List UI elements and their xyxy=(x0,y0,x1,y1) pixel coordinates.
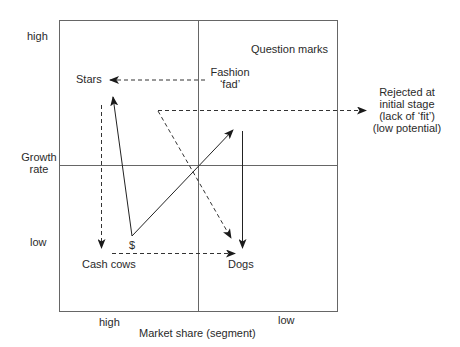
x-axis-title: Market share (segment) xyxy=(139,327,256,339)
cash-symbol: $ xyxy=(129,239,135,251)
rejected-line2: initial stage xyxy=(362,98,452,110)
x-axis-low-label: low xyxy=(278,314,295,326)
y-axis-high-label: high xyxy=(27,30,48,42)
quadrant-cashcows-label: Cash cows xyxy=(82,258,136,270)
fashion-fad-line2: ‘fad’ xyxy=(205,78,255,90)
arrow-cash-to-questionmarks xyxy=(132,130,233,236)
rejected-line4: (low potential) xyxy=(362,122,452,134)
x-axis-high-label: high xyxy=(99,316,120,328)
quadrant-questionmarks-label: Question marks xyxy=(251,43,328,55)
fashion-fad-line1: Fashion xyxy=(205,66,255,78)
y-axis-title-line2: rate xyxy=(19,163,59,175)
y-axis-title-line1: Growth xyxy=(19,151,59,163)
rejected-label: Rejected at initial stage (lack of ‘fit’… xyxy=(362,86,452,134)
quadrant-stars-label: Stars xyxy=(76,73,102,85)
arrow-cash-to-stars xyxy=(113,97,132,236)
quadrant-dogs-label: Dogs xyxy=(228,258,254,270)
y-axis-title: Growth rate xyxy=(19,151,59,175)
rejected-line1: Rejected at xyxy=(362,86,452,98)
arrow-entry-to-dogs xyxy=(158,111,231,238)
fashion-fad-label: Fashion ‘fad’ xyxy=(205,66,255,90)
rejected-line3: (lack of ‘fit’) xyxy=(362,110,452,122)
matrix-diagram xyxy=(0,0,460,347)
y-axis-low-label: low xyxy=(30,236,47,248)
